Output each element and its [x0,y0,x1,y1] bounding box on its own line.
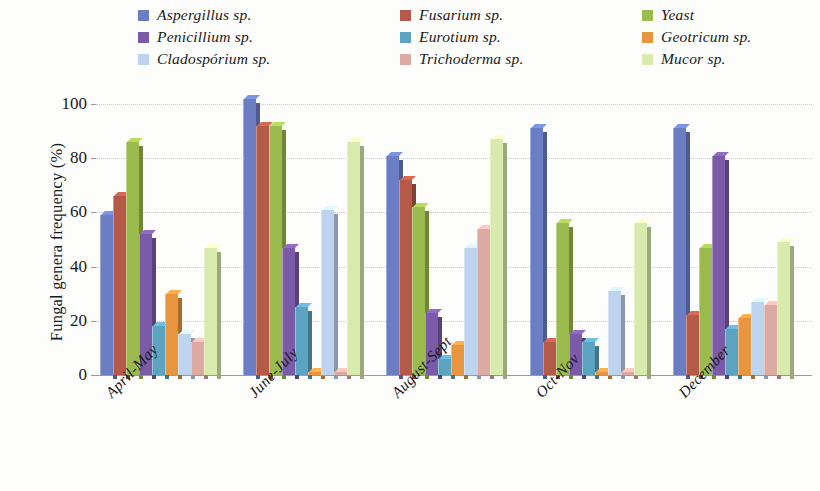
bar-slot [165,294,178,375]
bar[interactable] [777,242,790,375]
bar-slot [412,207,425,375]
bar-group-bars [526,104,669,375]
bar-top-face [140,230,156,234]
bar[interactable] [764,305,777,375]
legend-swatch-icon [400,54,411,65]
bar-slot [451,345,464,375]
bar-group [669,104,812,375]
bar[interactable] [269,126,282,375]
bar-top-face [127,138,143,142]
legend-item[interactable]: Fusarium sp. [400,4,642,26]
bar-top-face [609,287,625,291]
bar-side-face [360,146,364,379]
legend-swatch-icon [400,10,411,21]
bar[interactable] [386,156,399,376]
bar-top-face [570,330,586,334]
bar[interactable] [204,248,217,375]
bar[interactable] [178,334,191,375]
bar-slot [738,318,751,375]
fungal-genera-frequency-bar-chart: Aspergillus sp.Fusarium sp.YeastPenicill… [0,0,820,491]
legend-label: Cladospórium sp. [157,51,270,67]
bar-top-face [413,203,429,207]
bar[interactable] [412,207,425,375]
bar[interactable] [490,139,503,375]
legend-item[interactable]: Mucor sp. [642,48,798,70]
bar-side-face [217,252,221,379]
bar-slot [204,248,217,375]
legend-label: Mucor sp. [661,51,726,67]
bar[interactable] [191,342,204,375]
bar-top-face [179,330,195,334]
bar-slot [530,128,543,375]
x-label-cell: April-May [96,375,239,491]
bar-top-face [387,152,403,156]
bar[interactable] [751,302,764,375]
bar-slot [295,307,308,375]
bar[interactable] [477,229,490,375]
legend-swatch-icon [642,10,653,21]
bar-slot [490,139,503,375]
bar[interactable] [608,291,621,375]
bar-top-face [557,219,573,223]
y-tick-label: 0 [79,365,88,385]
bar[interactable] [113,196,126,375]
bar[interactable] [256,126,269,375]
bar-groups [96,104,812,375]
bar[interactable] [451,345,464,375]
bar-top-face [674,124,690,128]
y-tick-label: 100 [62,94,88,114]
legend-item[interactable]: Trichoderma sp. [400,48,642,70]
bar[interactable] [712,156,725,376]
bar[interactable] [738,318,751,375]
bar-side-face [334,214,338,379]
bar[interactable] [295,307,308,375]
bar[interactable] [347,142,360,375]
x-label-cell: December [669,375,812,491]
bar-slot [386,156,399,376]
legend-item[interactable]: Geotricum sp. [642,26,798,48]
legend-label: Yeast [661,7,694,23]
chart-legend: Aspergillus sp.Fusarium sp.YeastPenicill… [138,4,798,70]
legend-swatch-icon [642,54,653,65]
bar-top-face [270,122,286,126]
bar[interactable] [438,359,451,375]
y-tick-label: 80 [70,148,87,168]
legend-item[interactable]: Eurotium sp. [400,26,642,48]
legend-label: Penicillium sp. [157,29,253,45]
legend-label: Geotricum sp. [661,29,751,45]
bar[interactable] [321,210,334,375]
bar[interactable] [673,128,686,375]
bar[interactable] [100,215,113,375]
bar-slot [582,342,595,375]
bar-top-face [296,303,312,307]
bar-top-face [205,244,221,248]
bar-top-face [322,206,338,210]
legend-label: Fusarium sp. [419,7,503,23]
y-tick-label: 20 [70,311,87,331]
bar[interactable] [399,180,412,375]
bar-group [239,104,382,375]
legend-label: Trichoderma sp. [419,51,524,67]
bar[interactable] [582,342,595,375]
x-axis-labels: April-MayJune-JulyAugust-SeptOct-NovDece… [96,375,812,491]
bar[interactable] [126,142,139,375]
plot-area: 020406080100 [96,104,812,375]
x-label-cell: June-July [239,375,382,491]
bar-slot [777,242,790,375]
bar[interactable] [464,248,477,375]
legend-item[interactable]: Cladospórium sp. [138,48,400,70]
bar[interactable] [165,294,178,375]
legend-item[interactable]: Aspergillus sp. [138,4,400,26]
bar-slot [712,156,725,376]
bar-top-face [244,95,260,99]
bar-top-face [713,152,729,156]
legend-swatch-icon [400,32,411,43]
legend-item[interactable]: Yeast [642,4,798,26]
legend-item[interactable]: Penicillium sp. [138,26,400,48]
bar[interactable] [243,99,256,375]
bar-slot [321,210,334,375]
bar[interactable] [530,128,543,375]
bar[interactable] [634,223,647,375]
bar-side-face [503,143,507,379]
bar-group-bars [96,104,239,375]
